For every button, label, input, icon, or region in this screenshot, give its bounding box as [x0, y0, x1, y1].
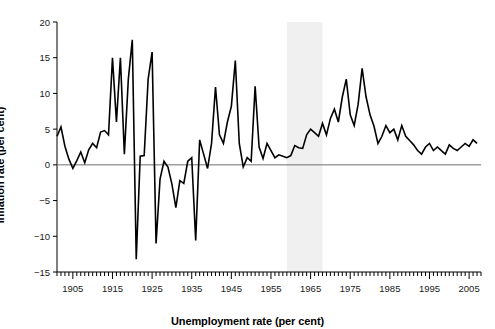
recession-shaded-band [287, 22, 323, 272]
y-tick-label: 10 [39, 88, 50, 99]
x-tick-label: 1975 [340, 283, 361, 294]
x-tick-label: 1995 [419, 283, 440, 294]
x-axis-title: Unemployment rate (per cent) [0, 315, 495, 327]
y-tick-label: −5 [39, 195, 50, 206]
shaded-band-rect [287, 22, 323, 272]
x-tick-label: 1905 [62, 283, 83, 294]
y-tick-label: 15 [39, 52, 50, 63]
x-tick-label: 1935 [181, 283, 202, 294]
inflation-line [57, 40, 477, 259]
x-tick-label: 1985 [379, 283, 400, 294]
y-tick-label: 5 [45, 124, 50, 135]
x-tick-label: 1925 [142, 283, 163, 294]
y-tick-label: 0 [45, 159, 50, 170]
inflation-unemployment-line-chart: −15−10−505101520 19051915192519351945195… [0, 0, 495, 329]
x-axis-tick-labels: 1905191519251935194519551965197519851995… [62, 283, 479, 294]
y-tick-label: 20 [39, 17, 50, 28]
y-tick-label: −10 [34, 231, 50, 242]
y-axis-title: Inflation rate (per cent) [0, 107, 6, 224]
x-tick-label: 1955 [260, 283, 281, 294]
x-tick-label: 1915 [102, 283, 123, 294]
x-tick-label: 2005 [459, 283, 480, 294]
chart-figure: −15−10−505101520 19051915192519351945195… [0, 0, 495, 329]
y-axis-tick-labels: −15−10−505101520 [34, 17, 50, 278]
inflation-rate-series [57, 40, 477, 259]
x-tick-label: 1965 [300, 283, 321, 294]
y-tick-label: −15 [34, 267, 50, 278]
x-tick-label: 1945 [221, 283, 242, 294]
